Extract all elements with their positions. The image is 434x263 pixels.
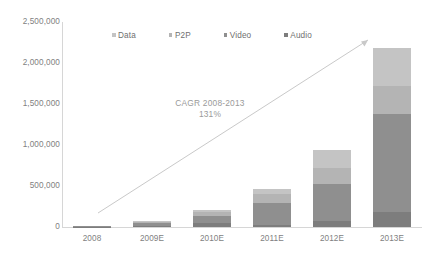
bar-segment-data[interactable] — [313, 150, 351, 168]
bar-segment-p2p[interactable] — [253, 194, 291, 203]
bar-slot — [62, 22, 122, 227]
bar-segment-p2p[interactable] — [313, 168, 351, 184]
stacked-bar[interactable] — [133, 221, 171, 227]
bar-segment-data[interactable] — [373, 48, 411, 86]
bar-segment-audio[interactable] — [193, 223, 231, 227]
bar-segment-video[interactable] — [253, 203, 291, 225]
bar-segment-p2p[interactable] — [373, 86, 411, 114]
bar-segment-video[interactable] — [193, 216, 231, 224]
stacked-bar[interactable] — [73, 226, 111, 227]
x-tick-label: 2010E — [182, 232, 242, 250]
stacked-bar[interactable] — [253, 189, 291, 227]
y-tick-label: 0 — [2, 223, 60, 231]
bar-slot — [362, 22, 422, 227]
x-axis-line — [62, 227, 422, 228]
x-tick-label: 2009E — [122, 232, 182, 250]
bar-segment-video[interactable] — [313, 184, 351, 221]
bar-segment-video[interactable] — [373, 114, 411, 212]
cagr-annotation-line1: CAGR 2008-2013 — [148, 98, 272, 109]
y-tick-label: 1,500,000 — [2, 100, 60, 108]
bar-segment-audio[interactable] — [253, 225, 291, 227]
stacked-bar[interactable] — [373, 48, 411, 227]
x-axis: 2008 2009E 2010E 2011E 2012E 2013E — [62, 232, 422, 250]
bar-series-group — [62, 22, 422, 227]
y-axis: 2,500,000 2,000,000 1,500,000 1,000,000 … — [0, 0, 60, 263]
bar-slot — [122, 22, 182, 227]
x-tick-label: 2011E — [242, 232, 302, 250]
y-tick-label: 500,000 — [2, 182, 60, 190]
bar-slot — [182, 22, 242, 227]
bar-segment-audio[interactable] — [313, 221, 351, 227]
stacked-bar[interactable] — [193, 210, 231, 227]
cagr-annotation: CAGR 2008-2013 131% — [148, 98, 272, 120]
y-tick-label: 1,000,000 — [2, 141, 60, 149]
x-tick-label: 2008 — [62, 232, 122, 250]
cagr-annotation-line2: 131% — [148, 109, 272, 120]
bar-segment-audio[interactable] — [133, 226, 171, 227]
stacked-bar-chart: 2,500,000 2,000,000 1,500,000 1,000,000 … — [0, 0, 434, 263]
y-tick-label: 2,500,000 — [2, 18, 60, 26]
bar-slot — [302, 22, 362, 227]
bar-slot — [242, 22, 302, 227]
stacked-bar[interactable] — [313, 150, 351, 227]
bar-segment-audio[interactable] — [373, 212, 411, 227]
y-tick-label: 2,000,000 — [2, 59, 60, 67]
x-tick-label: 2012E — [302, 232, 362, 250]
x-tick-label: 2013E — [362, 232, 422, 250]
